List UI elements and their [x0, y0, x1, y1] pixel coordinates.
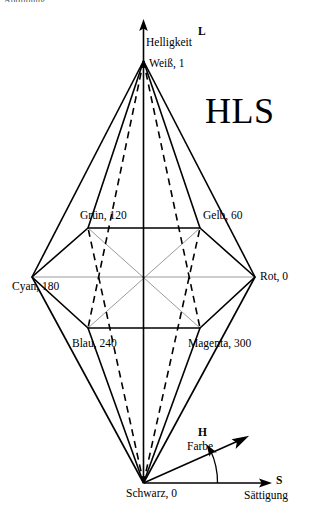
lightness-axis-symbol: L [198, 25, 206, 37]
lightness-axis-name: Helligkeit [146, 36, 192, 48]
vertex-label-magenta: Magenta, 300 [188, 337, 251, 349]
vertex-label-rot: Rot, 0 [260, 270, 288, 282]
vertex-label-gelb: Gelb, 60 [203, 209, 243, 221]
figure-title-hls: HLS [205, 90, 275, 132]
vertex-label-blau: Blau, 240 [72, 337, 117, 349]
saturation-axis-name: Sättigung [244, 489, 288, 501]
black-apex-label: Schwarz, 0 [126, 487, 177, 499]
hls-figure: Abbildung [0, 0, 316, 523]
center-point [143, 276, 145, 278]
white-apex-label: Weiß, 1 [149, 57, 184, 69]
hue-axis-name: Farbe [187, 440, 213, 452]
saturation-axis-symbol: S [276, 474, 282, 486]
hls-double-cone-drawing [0, 0, 316, 523]
vertex-label-gruen: Grün, 120 [80, 209, 127, 221]
hue-axis-symbol: H [198, 426, 207, 438]
vertex-label-cyan: Cyan, 180 [12, 280, 59, 292]
